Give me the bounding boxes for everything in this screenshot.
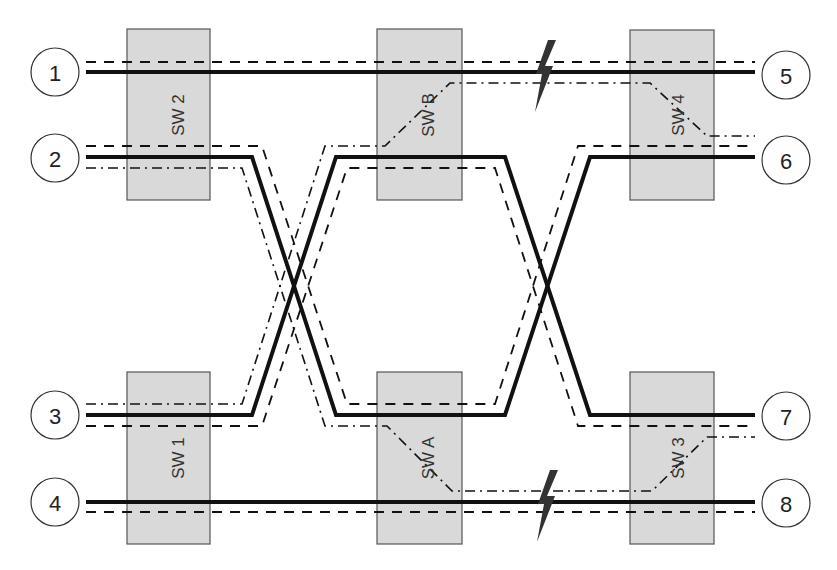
node-5: 5: [762, 51, 810, 99]
node-2: 2: [31, 134, 79, 182]
node-4-label: 4: [49, 491, 61, 516]
node-1: 1: [31, 48, 79, 96]
switch-swa-label: SW A: [419, 436, 438, 479]
node-8: 8: [762, 479, 810, 527]
switch-swb-label: SW B: [419, 93, 438, 136]
switch-sw2-label: SW 2: [169, 94, 188, 136]
node-3: 3: [31, 391, 79, 439]
switch-sw1-label: SW 1: [169, 437, 188, 479]
lightning-bolt-icon: [537, 470, 558, 542]
node-8-label: 8: [780, 492, 792, 517]
node-6-label: 6: [780, 149, 792, 174]
node-6: 6: [762, 136, 810, 184]
node-5-label: 5: [780, 64, 792, 89]
switch-topology-diagram: SW 2 SW B SW 4 SW 1 SW A SW 3 1 2 3 4 5 …: [0, 0, 837, 570]
node-1-label: 1: [49, 61, 61, 86]
node-2-label: 2: [49, 147, 61, 172]
node-3-label: 3: [49, 404, 61, 429]
switch-sw4-label: SW 4: [669, 94, 688, 136]
node-4: 4: [31, 478, 79, 526]
node-7-label: 7: [780, 405, 792, 430]
node-7: 7: [762, 392, 810, 440]
switch-sw3-label: SW 3: [669, 437, 688, 479]
lightning-bolt-icon: [535, 40, 556, 112]
